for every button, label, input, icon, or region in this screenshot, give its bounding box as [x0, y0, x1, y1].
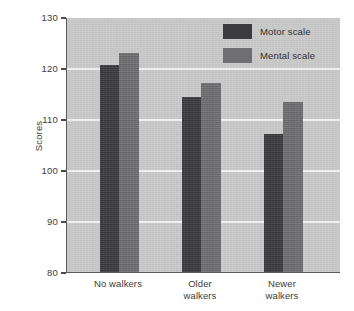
x-tick-label-no-walkers: No walkers	[73, 278, 163, 290]
legend-item-mental-scale: Mental scale	[223, 48, 315, 63]
bar-chart-figure: Scores 8090100110120130 Motor scale Ment…	[0, 0, 354, 311]
x-tick-label-older-walkers: Older walkers	[155, 278, 245, 301]
bar-older-walkers-motor-scale	[182, 97, 202, 272]
legend-swatch-motor-scale-icon	[223, 24, 252, 39]
legend: Motor scale Mental scale	[223, 24, 315, 63]
bar-no-walkers-motor-scale	[100, 65, 120, 272]
y-tick-label-100: 100	[18, 165, 58, 176]
y-tick-label-80: 80	[18, 267, 58, 278]
bar-older-walkers-mental-scale	[201, 83, 221, 272]
bar-no-walkers-mental-scale	[119, 53, 139, 272]
y-tick-label-110: 110	[18, 114, 58, 125]
legend-item-motor-scale: Motor scale	[223, 24, 315, 39]
legend-swatch-mental-scale-icon	[223, 48, 252, 63]
bar-newer-walkers-mental-scale	[283, 102, 303, 272]
bar-newer-walkers-motor-scale	[264, 134, 284, 272]
plot-area: Motor scale Mental scale	[66, 18, 340, 273]
legend-label-motor-scale: Motor scale	[260, 26, 311, 37]
y-tick-label-90: 90	[18, 216, 58, 227]
x-tick-label-newer-walkers: Newer walkers	[237, 278, 327, 301]
y-tick-label-120: 120	[18, 63, 58, 74]
legend-label-mental-scale: Mental scale	[260, 50, 315, 61]
y-tick-label-130: 130	[18, 12, 58, 23]
